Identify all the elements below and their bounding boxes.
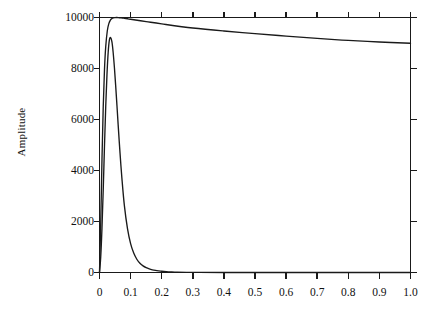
curve-narrow-peak-curve <box>100 37 411 272</box>
figure-caption <box>0 320 434 329</box>
axis-frame <box>100 18 411 273</box>
data-curves <box>100 17 411 272</box>
plot-area <box>0 0 434 329</box>
tick-marks <box>94 12 417 279</box>
figure-panel: Amplitude 0200040006000800010000 00.10.2… <box>0 0 434 329</box>
curve-broad-decay-curve <box>100 17 411 272</box>
